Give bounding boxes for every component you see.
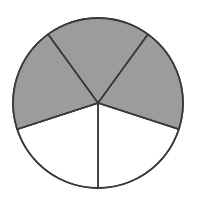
pie-chart-svg: [0, 0, 201, 199]
pie-figure-container: [0, 0, 201, 199]
